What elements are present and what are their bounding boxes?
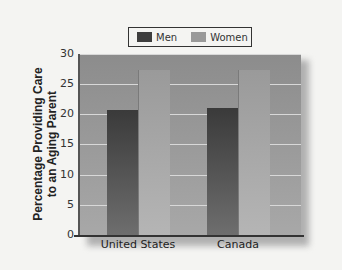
legend-label-men: Men (156, 32, 177, 43)
y-tick: 15 (50, 137, 74, 150)
chart-legend: Men Women (128, 27, 252, 47)
bar-canada-women (238, 70, 270, 235)
y-tick: 25 (50, 77, 74, 90)
y-axis (78, 54, 80, 236)
legend-swatch-men (137, 32, 152, 42)
y-tick: 5 (50, 198, 74, 211)
bar-us-women (138, 70, 170, 235)
plot-area (80, 54, 301, 235)
legend-swatch-women (191, 32, 206, 42)
x-category-canada: Canada (188, 238, 288, 251)
x-axis (74, 235, 304, 237)
y-tick: 10 (50, 168, 74, 181)
bar-canada-men (207, 108, 238, 235)
y-tick: 30 (50, 47, 74, 60)
legend-label-women: Women (210, 32, 248, 43)
y-tick: 20 (50, 107, 74, 120)
x-category-united-states: United States (88, 238, 188, 251)
bar-us-men (107, 110, 138, 235)
y-tick: 0 (50, 228, 74, 241)
